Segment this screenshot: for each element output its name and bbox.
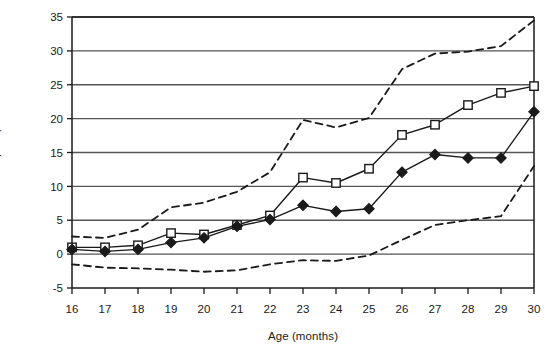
x-tick-label: 29 xyxy=(495,303,508,315)
marker-open-square xyxy=(464,101,472,109)
x-tick-label: 24 xyxy=(330,303,343,315)
marker-open-square xyxy=(365,165,373,173)
x-tick-label: 28 xyxy=(462,303,475,315)
x-tick-label: 19 xyxy=(165,303,178,315)
x-tick-label: 22 xyxy=(264,303,277,315)
x-tick-label: 23 xyxy=(297,303,310,315)
line-chart-plot: -505101520253035161718192021222324252627… xyxy=(0,0,557,357)
marker-open-square xyxy=(497,89,505,97)
marker-filled-diamond xyxy=(529,107,539,117)
y-tick-label: 30 xyxy=(50,45,63,57)
marker-open-square xyxy=(299,173,307,181)
marker-open-square xyxy=(167,229,175,237)
marker-open-square xyxy=(332,179,340,187)
marker-filled-diamond xyxy=(496,153,506,163)
x-tick-label: 26 xyxy=(396,303,409,315)
chart-figure: Number of more complex phrases -50510152… xyxy=(0,0,557,357)
marker-filled-diamond xyxy=(298,200,308,210)
y-tick-label: 15 xyxy=(50,147,63,159)
series-line-open-square-series xyxy=(72,86,534,247)
x-tick-label: 25 xyxy=(363,303,376,315)
y-tick-label: 35 xyxy=(50,11,63,23)
x-tick-label: 27 xyxy=(429,303,442,315)
x-tick-label: 20 xyxy=(198,303,211,315)
y-tick-label: 20 xyxy=(50,113,63,125)
x-tick-label: 30 xyxy=(528,303,541,315)
y-tick-label: 25 xyxy=(50,79,63,91)
x-tick-label: 17 xyxy=(99,303,112,315)
y-tick-label: 10 xyxy=(50,181,63,193)
marker-filled-diamond xyxy=(331,206,341,216)
marker-open-square xyxy=(398,131,406,139)
x-tick-label: 21 xyxy=(231,303,244,315)
x-tick-label: 16 xyxy=(66,303,79,315)
marker-open-square xyxy=(431,121,439,129)
marker-filled-diamond xyxy=(430,149,440,159)
x-tick-label: 18 xyxy=(132,303,145,315)
y-tick-label: 5 xyxy=(57,214,63,226)
y-tick-label: 0 xyxy=(57,248,63,260)
x-axis-title: Age (months) xyxy=(72,330,534,342)
marker-filled-diamond xyxy=(166,237,176,247)
y-tick-label: -5 xyxy=(53,282,63,294)
marker-open-square xyxy=(530,82,538,90)
marker-filled-diamond xyxy=(463,153,473,163)
